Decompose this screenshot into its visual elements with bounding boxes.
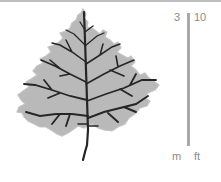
scale-metric-value: 3: [174, 11, 180, 23]
scale-metric-unit: m: [172, 150, 181, 162]
scale-imperial-value: 10: [194, 11, 206, 23]
scale-bar: [187, 13, 190, 146]
scale-imperial-unit: ft: [194, 150, 200, 162]
